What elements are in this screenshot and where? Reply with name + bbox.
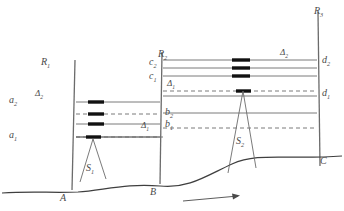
reference-line-R3 <box>318 12 320 166</box>
label-reference-R1: R1 <box>41 57 50 69</box>
label-point-C: C <box>320 156 327 166</box>
label-level-a2: a2 <box>9 95 17 107</box>
direction-arrow-head <box>232 194 240 200</box>
terrain-curve <box>2 156 342 193</box>
direction-arrow-shaft <box>183 196 238 201</box>
label-point-A: A <box>60 193 66 203</box>
reference-line-R1 <box>72 60 75 190</box>
label-structure-S1: S1 <box>86 163 94 175</box>
label-delta2-right: Δ2 <box>280 48 288 59</box>
label-structure-S2: S2 <box>236 136 244 148</box>
label-level-c1: c1 <box>149 71 157 83</box>
label-level-b1: b1 <box>165 119 173 131</box>
label-delta1-mid: Δ1 <box>167 79 175 90</box>
label-level-d2: d2 <box>322 55 330 67</box>
label-reference-R2: R2 <box>158 49 167 61</box>
label-level-d1: d1 <box>322 88 330 100</box>
label-reference-R3: R3 <box>314 6 323 18</box>
label-point-B: B <box>150 187 156 197</box>
diagram-svg <box>0 0 344 211</box>
reference-lines <box>72 12 320 190</box>
label-delta2-left: Δ2 <box>35 89 43 100</box>
reference-line-R2 <box>160 52 162 184</box>
label-level-c2: c2 <box>149 57 157 69</box>
label-delta1-left: Δ1 <box>141 121 149 132</box>
label-level-a1: a1 <box>9 130 17 142</box>
diagram-canvas: R1 R2 R3 A B C a2 a1 b2 b1 c2 c1 d2 d1 Δ… <box>0 0 344 211</box>
direction-arrow <box>183 194 240 201</box>
structure-S1-outline <box>80 139 106 182</box>
